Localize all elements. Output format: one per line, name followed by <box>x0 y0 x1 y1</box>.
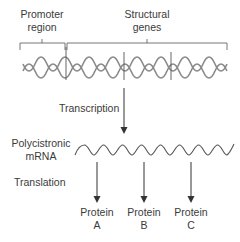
translation-arrow-b <box>141 162 148 203</box>
protein-c-label: Protein C <box>171 206 211 232</box>
promoter-bracket <box>20 39 65 50</box>
polycistronic-mrna-label: Polycistronic mRNA <box>8 137 74 163</box>
translation-arrow-c <box>188 162 195 203</box>
structural-genes-label: Structural genes <box>112 8 182 34</box>
translation-arrow-a <box>94 162 101 203</box>
translation-label: Translation <box>14 176 66 189</box>
dna-double-helix <box>23 57 227 78</box>
protein-b-label: Protein B <box>124 206 164 232</box>
mrna-strand <box>75 144 234 155</box>
promoter-region-label: Promoter region <box>12 8 72 34</box>
structural-genes-bracket <box>67 39 227 50</box>
transcription-arrow <box>121 88 128 134</box>
transcription-label: Transcription <box>59 102 119 115</box>
protein-a-label: Protein A <box>77 206 117 232</box>
